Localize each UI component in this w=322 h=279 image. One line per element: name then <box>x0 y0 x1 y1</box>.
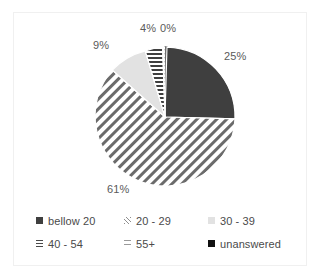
legend-swatch-solid-black-square <box>208 240 215 247</box>
legend-item-20-29[interactable]: 20 - 29 <box>124 215 208 227</box>
legend-label-20-29: 20 - 29 <box>136 215 171 227</box>
legend-label-unanswered: unanswered <box>220 238 281 250</box>
legend-row: bellow 20 20 - 29 30 - 39 <box>14 209 308 232</box>
legend-swatch-solid-dark-gray-square <box>36 217 43 224</box>
pie-chart-graphic <box>14 13 308 213</box>
pie-label-bellow-20: 25% <box>224 50 246 62</box>
pie-label-40-54: 4% <box>140 22 156 34</box>
legend-item-55-plus[interactable]: 55+ <box>124 238 208 250</box>
pie-label-20-29: 61% <box>107 183 129 195</box>
legend-row: 40 - 54 55+ unanswered <box>14 232 308 255</box>
legend-item-40-54[interactable]: 40 - 54 <box>36 238 124 250</box>
legend-label-bellow-20: bellow 20 <box>48 215 95 227</box>
legend-swatch-light-gray-square <box>208 217 215 224</box>
chart-legend: bellow 20 20 - 29 30 - 39 40 - 54 55+ <box>14 209 308 267</box>
pie-label-55-plus: 0% <box>160 22 176 34</box>
pie-plot-area: 25% 61% 9% 4% 0% 0% <box>14 13 308 213</box>
chart-frame: 25% 61% 9% 4% 0% 0% bellow 20 20 - 29 30… <box>13 12 307 266</box>
pie-label-30-39: 9% <box>93 39 109 51</box>
legend-item-unanswered[interactable]: unanswered <box>208 238 308 250</box>
legend-swatch-diagonal-hatch-square <box>124 217 131 224</box>
legend-swatch-dotted-square <box>124 240 131 247</box>
legend-label-55-plus: 55+ <box>136 238 155 250</box>
legend-label-40-54: 40 - 54 <box>48 238 83 250</box>
legend-swatch-horizontal-lines-square <box>36 240 43 247</box>
legend-item-30-39[interactable]: 30 - 39 <box>208 215 308 227</box>
legend-label-30-39: 30 - 39 <box>220 215 255 227</box>
legend-item-bellow-20[interactable]: bellow 20 <box>36 215 124 227</box>
